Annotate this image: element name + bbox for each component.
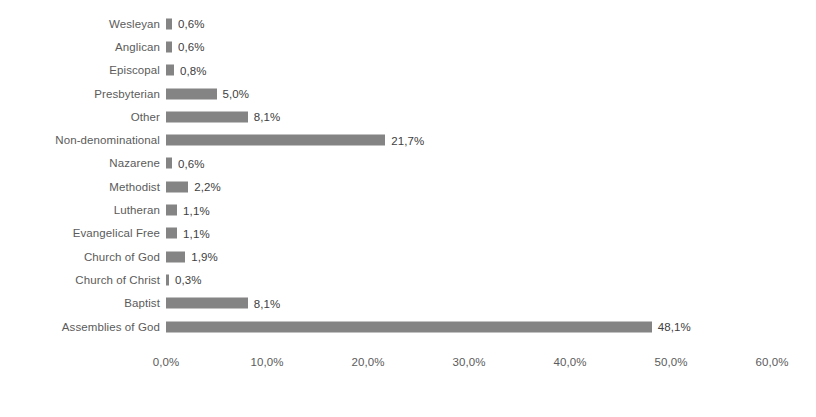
bar[interactable] bbox=[166, 228, 177, 239]
category-label: Evangelical Free bbox=[73, 227, 160, 239]
bar-track: 8,1% bbox=[166, 111, 816, 122]
bar-track: 1,9% bbox=[166, 251, 816, 262]
bar-row: Wesleyan0,6% bbox=[0, 12, 816, 35]
category-label: Assemblies of God bbox=[62, 321, 160, 333]
category-label: Baptist bbox=[124, 297, 160, 309]
x-tick-label: 40,0% bbox=[553, 356, 586, 368]
bar-track: 21,7% bbox=[166, 135, 816, 146]
bar[interactable] bbox=[166, 251, 185, 262]
bar[interactable] bbox=[166, 205, 177, 216]
bar[interactable] bbox=[166, 158, 172, 169]
value-label: 8,1% bbox=[254, 297, 281, 309]
value-label: 5,0% bbox=[223, 88, 250, 100]
bar[interactable] bbox=[166, 274, 169, 285]
bar-row: Church of God1,9% bbox=[0, 245, 816, 268]
bar-row: Nazarene0,6% bbox=[0, 152, 816, 175]
value-label: 1,9% bbox=[191, 251, 218, 263]
bar[interactable] bbox=[166, 321, 652, 332]
bar-track: 2,2% bbox=[166, 181, 816, 192]
value-label: 0,8% bbox=[180, 64, 207, 76]
bar-track: 0,6% bbox=[166, 41, 816, 52]
bar-track: 5,0% bbox=[166, 88, 816, 99]
value-label: 1,1% bbox=[183, 204, 210, 216]
value-label: 48,1% bbox=[658, 321, 691, 333]
category-label: Methodist bbox=[109, 181, 160, 193]
bar-track: 48,1% bbox=[166, 321, 816, 332]
bar[interactable] bbox=[166, 111, 248, 122]
bar-row: Lutheran1,1% bbox=[0, 198, 816, 221]
bar[interactable] bbox=[166, 18, 172, 29]
bar[interactable] bbox=[166, 88, 217, 99]
bar-row: Assemblies of God48,1% bbox=[0, 315, 816, 338]
category-label: Non-denominational bbox=[55, 134, 160, 146]
category-label: Lutheran bbox=[114, 204, 160, 216]
value-label: 1,1% bbox=[183, 227, 210, 239]
category-label: Wesleyan bbox=[109, 18, 160, 30]
bar-track: 1,1% bbox=[166, 205, 816, 216]
category-label: Episcopal bbox=[109, 64, 160, 76]
value-label: 2,2% bbox=[194, 181, 221, 193]
bar[interactable] bbox=[166, 298, 248, 309]
bar-track: 0,6% bbox=[166, 18, 816, 29]
value-label: 0,6% bbox=[178, 18, 205, 30]
x-tick-label: 30,0% bbox=[452, 356, 485, 368]
x-tick-label: 60,0% bbox=[755, 356, 788, 368]
x-tick-label: 0,0% bbox=[153, 356, 180, 368]
bar-track: 1,1% bbox=[166, 228, 816, 239]
bar[interactable] bbox=[166, 65, 174, 76]
bar-row: Baptist8,1% bbox=[0, 292, 816, 315]
bar-row: Church of Christ0,3% bbox=[0, 268, 816, 291]
value-label: 0,3% bbox=[175, 274, 202, 286]
bar[interactable] bbox=[166, 41, 172, 52]
x-tick-label: 50,0% bbox=[654, 356, 687, 368]
bar-track: 0,3% bbox=[166, 274, 816, 285]
bar-row: Evangelical Free1,1% bbox=[0, 222, 816, 245]
bar-row: Non-denominational21,7% bbox=[0, 128, 816, 151]
bar-track: 8,1% bbox=[166, 298, 816, 309]
category-label: Other bbox=[131, 111, 160, 123]
x-tick-label: 10,0% bbox=[250, 356, 283, 368]
category-label: Anglican bbox=[115, 41, 160, 53]
bar-track: 0,6% bbox=[166, 158, 816, 169]
value-label: 0,6% bbox=[178, 157, 205, 169]
category-label: Church of God bbox=[84, 251, 160, 263]
bar-chart: Wesleyan0,6%Anglican0,6%Episcopal0,8%Pre… bbox=[0, 0, 816, 417]
value-label: 0,6% bbox=[178, 41, 205, 53]
bar-row: Methodist2,2% bbox=[0, 175, 816, 198]
bar-row: Presbyterian5,0% bbox=[0, 82, 816, 105]
bar[interactable] bbox=[166, 181, 188, 192]
bar-row: Episcopal0,8% bbox=[0, 59, 816, 82]
bar[interactable] bbox=[166, 135, 385, 146]
value-label: 8,1% bbox=[254, 111, 281, 123]
bar-track: 0,8% bbox=[166, 65, 816, 76]
category-label: Church of Christ bbox=[75, 274, 160, 286]
category-label: Presbyterian bbox=[94, 88, 160, 100]
plot-area: Wesleyan0,6%Anglican0,6%Episcopal0,8%Pre… bbox=[0, 12, 816, 352]
category-label: Nazarene bbox=[109, 157, 160, 169]
x-axis: 0,0%10,0%20,0%30,0%40,0%50,0%60,0% bbox=[0, 356, 816, 380]
value-label: 21,7% bbox=[391, 134, 424, 146]
bar-row: Anglican0,6% bbox=[0, 35, 816, 58]
x-tick-label: 20,0% bbox=[351, 356, 384, 368]
bar-row: Other8,1% bbox=[0, 105, 816, 128]
